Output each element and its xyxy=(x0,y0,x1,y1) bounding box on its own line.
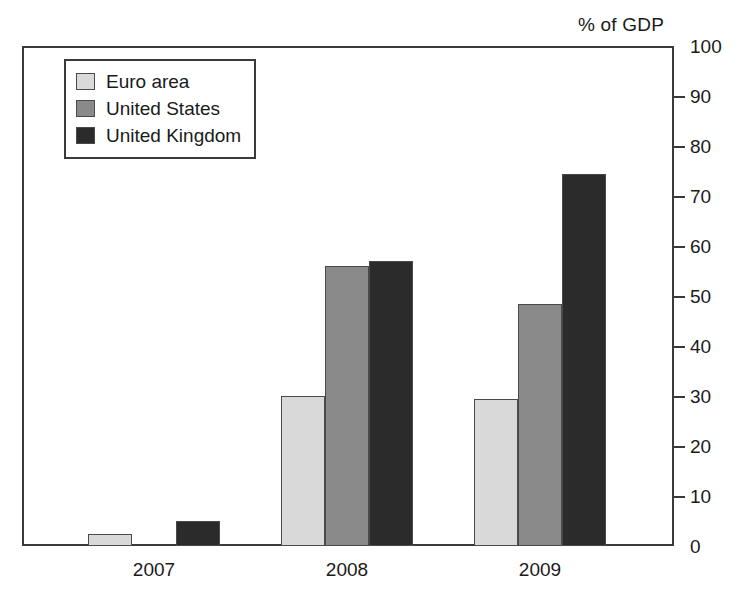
legend-swatch-icon xyxy=(76,127,95,144)
legend-item-label: Euro area xyxy=(106,72,189,91)
bar-2009-united-states xyxy=(518,304,562,547)
legend-swatch-icon xyxy=(76,73,95,90)
y-axis-tick-70 xyxy=(674,196,685,198)
bar-2009-euro-area xyxy=(474,399,518,547)
y-axis-tick-20 xyxy=(674,446,685,448)
y-axis-label-20: 20 xyxy=(690,437,711,456)
y-axis-label-90: 90 xyxy=(690,87,711,106)
y-axis-label-40: 40 xyxy=(690,337,711,356)
y-axis-tick-60 xyxy=(674,246,685,248)
y-axis-tick-80 xyxy=(674,146,685,148)
legend-item-label: United States xyxy=(106,99,220,118)
y-axis-tick-30 xyxy=(674,396,685,398)
y-axis-label-10: 10 xyxy=(690,487,711,506)
legend-item-label: United Kingdom xyxy=(106,126,241,145)
y-axis-tick-50 xyxy=(674,296,685,298)
y-axis-label-30: 30 xyxy=(690,387,711,406)
y-axis-tick-90 xyxy=(674,96,685,98)
y-axis-tick-10 xyxy=(674,496,685,498)
bar-2008-united-states xyxy=(325,266,369,546)
legend-item-euro-area: Euro area xyxy=(76,68,241,95)
x-axis-label-2007: 2007 xyxy=(133,560,175,579)
bar-2007-euro-area xyxy=(88,534,132,547)
legend-swatch-icon xyxy=(76,100,95,117)
y-axis-label-0: 0 xyxy=(690,537,701,556)
bar-chart: % of GDP 0102030405060708090100 20072008… xyxy=(0,0,739,603)
y-axis-unit-label: % of GDP xyxy=(578,14,664,36)
x-axis-label-2008: 2008 xyxy=(326,560,368,579)
y-axis-label-70: 70 xyxy=(690,187,711,206)
page-edge-artifact xyxy=(0,598,739,603)
bar-2009-united-kingdom xyxy=(562,174,606,547)
legend-item-united-states: United States xyxy=(76,95,241,122)
y-axis-label-60: 60 xyxy=(690,237,711,256)
y-axis-label-80: 80 xyxy=(690,137,711,156)
chart-legend: Euro areaUnited StatesUnited Kingdom xyxy=(64,59,256,159)
bar-2007-united-kingdom xyxy=(176,521,220,546)
y-axis-label-100: 100 xyxy=(690,37,722,56)
y-axis-tick-40 xyxy=(674,346,685,348)
legend-item-united-kingdom: United Kingdom xyxy=(76,122,241,149)
x-axis-label-2009: 2009 xyxy=(519,560,561,579)
bar-2008-united-kingdom xyxy=(369,261,413,546)
y-axis-label-50: 50 xyxy=(690,287,711,306)
bar-2008-euro-area xyxy=(281,396,325,546)
